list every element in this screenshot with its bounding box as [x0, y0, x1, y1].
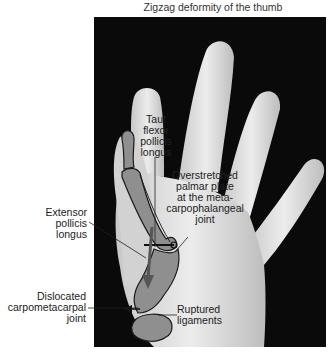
label-overstretched-palmar-plate: Overstretched palmar plate at the meta- … [160, 170, 250, 225]
figure-title: Zigzag deformity of the thumb [94, 1, 332, 13]
trapezium-bone [132, 314, 172, 341]
distal-phalanx-bone [122, 131, 134, 169]
label-extensor-pollicis-longus: Extensor pollicis longus [20, 207, 87, 240]
label-ruptured-ligaments: Ruptured ligaments [177, 304, 237, 326]
label-taut-flexor-pollicis-longus: Taut flexor pollicis longus [135, 114, 177, 158]
label-dislocated-carpometacarpal-joint: Dislocated carpometacarpal joint [0, 291, 86, 324]
